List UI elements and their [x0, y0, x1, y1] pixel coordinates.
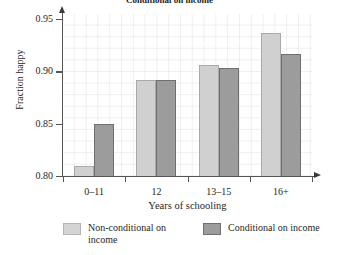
chart-legend: Non-conditional on income Conditional on… — [63, 222, 335, 254]
x-axis-tick — [125, 176, 126, 182]
y-axis-tick-label: 0.95 — [7, 14, 53, 24]
y-axis-tick-label: 0.80 — [7, 171, 53, 181]
bar — [74, 166, 94, 176]
y-axis-tick — [56, 124, 63, 125]
x-axis-title: Years of schooling — [63, 200, 312, 212]
x-axis-category-label: 13–15 — [206, 186, 231, 197]
bar — [261, 33, 281, 176]
y-axis-tick — [56, 71, 63, 72]
bar — [219, 68, 239, 176]
bar — [94, 124, 114, 176]
chart-figure: Conditional on income 0.800.850.900.95 0… — [0, 0, 339, 255]
x-axis-tick — [188, 176, 189, 182]
y-axis-title: Fraction happy — [14, 25, 25, 135]
legend-label-conditional: Conditional on income — [228, 222, 320, 234]
x-axis-category-label: 12 — [151, 186, 161, 197]
legend-label-non-conditional: Non-conditional on income — [88, 222, 192, 245]
x-axis-tick — [312, 176, 313, 182]
chart-title: Conditional on income — [0, 0, 339, 4]
bar — [156, 80, 176, 176]
x-axis-category-label: 16+ — [273, 186, 289, 197]
x-axis-category-label: 0–11 — [84, 186, 104, 197]
x-axis-arrow-icon — [314, 172, 321, 178]
legend-item-conditional: Conditional on income — [203, 222, 338, 235]
x-axis-tick — [63, 176, 64, 182]
x-axis-tick — [250, 176, 251, 182]
x-axis-line — [62, 176, 316, 177]
bar — [281, 54, 301, 176]
plot-area — [63, 14, 312, 176]
legend-swatch-non-conditional — [63, 223, 81, 235]
bars-container — [63, 14, 312, 176]
y-axis-line — [62, 12, 63, 177]
legend-item-non-conditional: Non-conditional on income — [63, 222, 203, 245]
bar — [136, 80, 156, 176]
y-axis-tick — [56, 19, 63, 20]
y-axis-tick — [56, 176, 63, 177]
y-axis-arrow-icon — [59, 6, 65, 13]
bar — [199, 65, 219, 176]
legend-swatch-conditional — [203, 223, 221, 235]
